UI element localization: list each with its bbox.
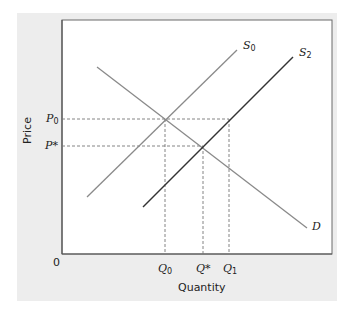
q1-label: Q1 <box>223 263 237 276</box>
qstar-label: Q* <box>196 263 211 274</box>
plot-area <box>62 20 332 254</box>
d-label: D <box>312 221 321 232</box>
q0-label: Q0 <box>158 263 172 276</box>
x-axis-title: Quantity <box>178 281 226 294</box>
p0-label: P0 <box>46 113 59 126</box>
s2-label: S2 <box>299 47 312 60</box>
pstar-label: P* <box>45 140 58 151</box>
y-axis-title: Price <box>21 117 34 144</box>
s0-label: S0 <box>243 40 256 53</box>
origin-label: 0 <box>53 257 60 268</box>
